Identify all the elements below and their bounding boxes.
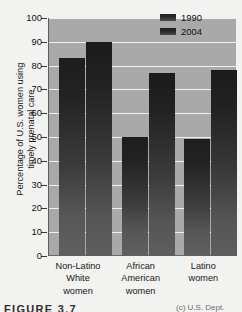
bar-1990-group-3 [184,139,210,256]
legend-item: 1990 [160,12,230,23]
y-axis-tick-label: 20 [12,202,42,213]
bar-1990-group-1 [59,58,85,256]
legend: 19902004 [160,12,230,40]
figure-caption-label: FIGURE 3.7 [4,303,77,312]
bar-2004-group-1 [86,42,112,256]
x-axis-category-label: African American women [105,260,177,297]
bar-group [59,18,112,256]
y-axis-tick-label: 60 [12,107,42,118]
bar-2004-group-2 [149,73,175,256]
figure-caption-credit: (c) U.S. Dept. [176,303,224,312]
y-axis-tick-label: 30 [12,179,42,190]
y-axis-tick-label: 10 [12,226,42,237]
figure-container: Percentage of U.S. women using timely pr… [0,0,242,312]
y-axis-tick-label: 70 [12,83,42,94]
y-axis-tick-label: 80 [12,60,42,71]
bar-2004-group-3 [211,70,237,256]
legend-swatch-icon [160,28,176,35]
x-axis-category-label: Non-Latino White women [42,260,114,297]
x-axis-labels: Non-Latino White womenAfrican American w… [48,260,236,304]
bar-group [122,18,175,256]
x-axis-category-label: Latino women [167,260,239,285]
legend-label: 1990 [181,12,202,23]
bar-1990-group-2 [122,137,148,256]
y-axis-tick-label: 40 [12,155,42,166]
legend-label: 2004 [181,26,202,37]
y-axis-tick-label: 100 [12,12,42,23]
plot-area [48,18,236,256]
legend-swatch-icon [160,14,176,21]
y-axis-tick-label: 50 [12,131,42,142]
y-axis-tick-label: 90 [12,36,42,47]
bar-group [184,18,237,256]
legend-item: 2004 [160,26,230,37]
y-axis-tick-label: 0 [12,250,42,261]
